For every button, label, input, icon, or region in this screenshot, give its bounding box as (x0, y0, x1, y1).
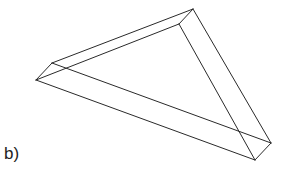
frame-edge (36, 63, 52, 80)
frame-edge (193, 9, 271, 143)
frame-edge (255, 143, 271, 160)
frame-edge (52, 63, 271, 143)
frame-edge (52, 9, 193, 63)
triangle-frame-diagram (0, 0, 285, 177)
frame-edge (179, 24, 255, 160)
frame-edge (36, 80, 255, 160)
frame-edge (36, 24, 179, 80)
figure-label: b) (4, 144, 19, 164)
